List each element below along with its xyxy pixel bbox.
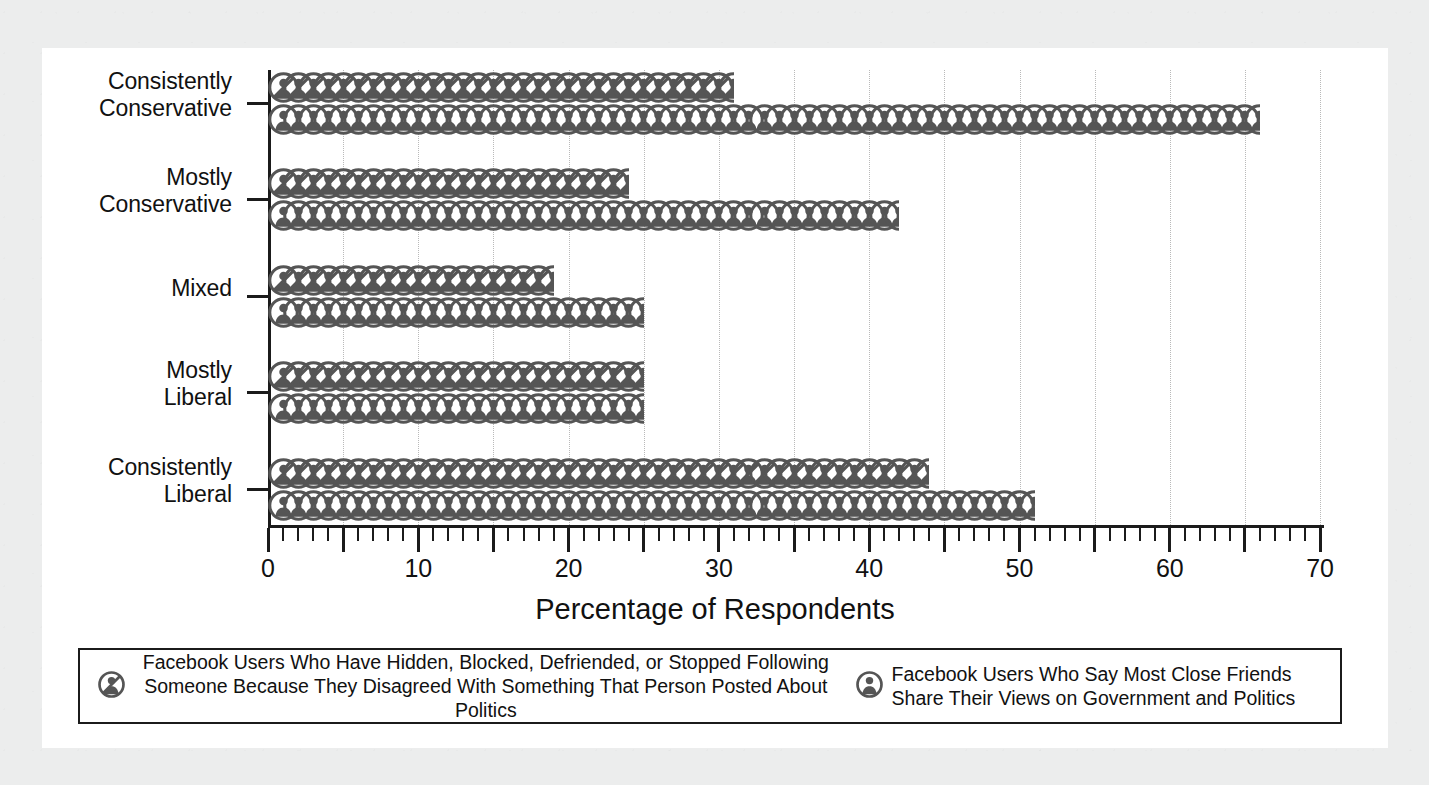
pictogram-row bbox=[268, 490, 1035, 521]
x-tick-minor bbox=[387, 528, 389, 541]
legend-entry-close-friends: Facebook Users Who Say Most Close Friend… bbox=[838, 662, 1340, 710]
category-tick bbox=[247, 391, 269, 394]
x-tick-minor bbox=[1214, 528, 1216, 541]
x-tick-label: 50 bbox=[1006, 554, 1034, 583]
gridline bbox=[1320, 70, 1322, 525]
x-tick-minor bbox=[823, 528, 825, 541]
x-tick-minor bbox=[507, 528, 509, 541]
legend-entry-label: Facebook Users Who Say Most Close Friend… bbox=[892, 662, 1296, 710]
x-tick-minor bbox=[327, 528, 329, 541]
x-tick-major bbox=[267, 528, 270, 552]
x-tick-minor bbox=[432, 528, 434, 541]
x-tick-major bbox=[1093, 528, 1096, 552]
x-tick-minor bbox=[838, 528, 840, 541]
pictogram-row bbox=[268, 361, 644, 392]
x-tick-minor bbox=[372, 528, 374, 541]
person-blocked-icon bbox=[98, 671, 125, 702]
x-tick-label: 60 bbox=[1156, 554, 1184, 583]
x-tick-major bbox=[1168, 528, 1171, 552]
x-tick-major bbox=[868, 528, 871, 552]
category-label: ConsistentlyLiberal bbox=[0, 454, 232, 508]
x-tick-minor bbox=[357, 528, 359, 541]
x-tick-major bbox=[943, 528, 946, 552]
x-tick-major bbox=[717, 528, 720, 552]
x-tick-minor bbox=[988, 528, 990, 541]
x-tick-minor bbox=[958, 528, 960, 541]
x-tick-minor bbox=[928, 528, 930, 541]
x-tick-major bbox=[342, 528, 345, 552]
x-tick-minor bbox=[477, 528, 479, 541]
x-tick-minor bbox=[447, 528, 449, 541]
x-tick-label: 70 bbox=[1306, 554, 1334, 583]
category-tick bbox=[247, 295, 269, 298]
x-tick-minor bbox=[583, 528, 585, 541]
pictogram-row bbox=[268, 104, 1260, 135]
x-tick-minor bbox=[1184, 528, 1186, 541]
gridline bbox=[644, 70, 646, 525]
gridline bbox=[944, 70, 946, 525]
x-tick-minor bbox=[282, 528, 284, 541]
x-tick-minor bbox=[808, 528, 810, 541]
x-tick-label: 20 bbox=[555, 554, 583, 583]
x-tick-major bbox=[1319, 528, 1322, 552]
x-tick-major bbox=[793, 528, 796, 552]
plot-area: ConsistentlyConservativeMostlyConservati… bbox=[42, 48, 1388, 588]
x-tick-minor bbox=[598, 528, 600, 541]
chart-panel: ConsistentlyConservativeMostlyConservati… bbox=[42, 48, 1388, 748]
x-tick-minor bbox=[778, 528, 780, 541]
x-tick-label: 40 bbox=[855, 554, 883, 583]
x-axis-ticks: 010203040506070 bbox=[268, 528, 1328, 554]
pictogram-row bbox=[268, 72, 734, 103]
x-tick-minor bbox=[1154, 528, 1156, 541]
x-tick-minor bbox=[1289, 528, 1291, 541]
x-tick-minor bbox=[913, 528, 915, 541]
category-label-line: Liberal bbox=[164, 481, 232, 507]
gridline bbox=[869, 70, 871, 525]
x-tick-major bbox=[417, 528, 420, 552]
x-tick-minor bbox=[883, 528, 885, 541]
category-label-line: Consistently bbox=[108, 68, 232, 94]
x-tick-minor bbox=[1049, 528, 1051, 541]
x-tick-minor bbox=[763, 528, 765, 541]
pictogram-row bbox=[268, 393, 644, 424]
x-tick-minor bbox=[1079, 528, 1081, 541]
pictogram-row bbox=[268, 200, 899, 231]
x-tick-major bbox=[1243, 528, 1246, 552]
category-label: MostlyConservative bbox=[0, 164, 232, 218]
legend-entry-label: Facebook Users Who Have Hidden, Blocked,… bbox=[134, 650, 838, 722]
category-label-line: Consistently bbox=[108, 454, 232, 480]
gridline bbox=[794, 70, 796, 525]
x-tick-minor bbox=[658, 528, 660, 541]
x-tick-minor bbox=[703, 528, 705, 541]
x-tick-minor bbox=[1003, 528, 1005, 541]
category-label-line: Liberal bbox=[164, 384, 232, 410]
x-tick-minor bbox=[1229, 528, 1231, 541]
category-label-line: Mostly bbox=[166, 164, 232, 190]
pictogram-row bbox=[268, 168, 629, 199]
legend-entry-hidden-blocked: Facebook Users Who Have Hidden, Blocked,… bbox=[80, 650, 838, 722]
x-tick-minor bbox=[973, 528, 975, 541]
x-tick-minor bbox=[613, 528, 615, 541]
x-tick-minor bbox=[733, 528, 735, 541]
gridline bbox=[1020, 70, 1022, 525]
category-label: MostlyLiberal bbox=[0, 357, 232, 411]
x-tick-minor bbox=[1139, 528, 1141, 541]
category-label: Mixed bbox=[0, 275, 232, 302]
x-tick-minor bbox=[1304, 528, 1306, 541]
x-tick-minor bbox=[748, 528, 750, 541]
person-icon bbox=[856, 671, 883, 702]
x-tick-minor bbox=[1124, 528, 1126, 541]
gridline bbox=[1095, 70, 1097, 525]
x-tick-minor bbox=[523, 528, 525, 541]
x-tick-minor bbox=[628, 528, 630, 541]
x-tick-major bbox=[492, 528, 495, 552]
x-tick-minor bbox=[402, 528, 404, 541]
x-tick-minor bbox=[1064, 528, 1066, 541]
x-tick-major bbox=[567, 528, 570, 552]
gridline bbox=[719, 70, 721, 525]
category-label-line: Mixed bbox=[171, 275, 232, 301]
gridline bbox=[1245, 70, 1247, 525]
x-tick-label: 0 bbox=[261, 554, 275, 583]
x-tick-minor bbox=[898, 528, 900, 541]
x-tick-minor bbox=[1274, 528, 1276, 541]
